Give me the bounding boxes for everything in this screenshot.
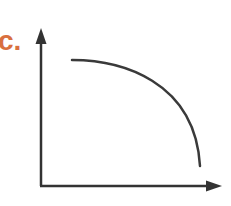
x-axis-arrowhead-icon (206, 181, 222, 192)
diagram (0, 0, 231, 206)
curve (72, 60, 200, 166)
x-axis (40, 181, 222, 192)
y-axis (36, 28, 47, 186)
y-axis-arrowhead-icon (36, 28, 47, 44)
